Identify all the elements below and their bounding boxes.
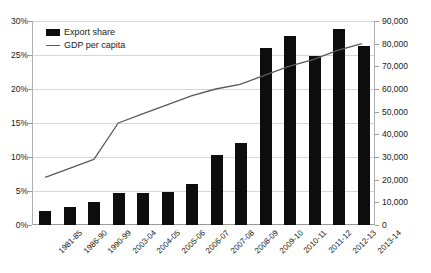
y-axis-right-tick-mark (375, 180, 379, 181)
y-axis-left-tick-label: 0% (0, 221, 28, 230)
x-axis-tick-label: 2013-14 (376, 229, 402, 255)
chart-container: 0%5%10%15%20%25%30% 010,00020,00030,0004… (0, 0, 431, 273)
x-axis-tick-label: 1981-85 (58, 229, 84, 255)
x-axis-tick-label: 1990-99 (107, 229, 133, 255)
legend-item-export-share: Export share (46, 26, 125, 39)
y-axis-right-tick-label: 40,000 (382, 130, 408, 139)
y-axis-left-tick-label: 15% (0, 119, 28, 128)
gdp-per-capita-line (45, 44, 362, 178)
legend-label-export-share: Export share (64, 28, 115, 37)
y-axis-right-tick-mark (375, 157, 379, 158)
x-axis-tick-label: 2007-08 (229, 229, 255, 255)
y-axis-left-tick-label: 10% (0, 153, 28, 162)
x-axis-tick-label: 2004-05 (156, 229, 182, 255)
chart-legend: Export share GDP per capita (46, 26, 125, 52)
y-axis-left-tick-label: 20% (0, 85, 28, 94)
x-axis-tick-label: 2008-09 (254, 229, 280, 255)
y-axis-right-tick-label: 20,000 (382, 176, 408, 185)
y-axis-right-tick-mark (375, 225, 379, 226)
y-axis-right-tick-mark (375, 112, 379, 113)
y-axis-right-tick-mark (375, 134, 379, 135)
legend-line-swatch-icon (46, 42, 60, 49)
y-axis-right-tick-label: 0 (382, 221, 387, 230)
y-axis-left-tick-label: 25% (0, 51, 28, 60)
x-axis-tick-label: 2011-12 (327, 229, 353, 255)
y-axis-right-tick-label: 60,000 (382, 85, 408, 94)
y-axis-right-tick-mark (375, 202, 379, 203)
y-axis-left-tick-mark (28, 225, 32, 226)
y-axis-right-tick-label: 10,000 (382, 198, 408, 207)
y-axis-right-tick-label: 30,000 (382, 153, 408, 162)
legend-item-gdp-per-capita: GDP per capita (46, 39, 125, 52)
y-axis-right-tick-label: 90,000 (382, 17, 408, 26)
x-axis-tick-label: 2012-13 (352, 229, 378, 255)
legend-label-gdp-per-capita: GDP per capita (64, 41, 125, 50)
y-axis-right-tick-mark (375, 66, 379, 67)
x-axis-tick-label: 2003-04 (131, 229, 157, 255)
y-axis-left-tick-label: 30% (0, 17, 28, 26)
y-axis-right-tick-label: 70,000 (382, 62, 408, 71)
y-axis-left-tick-label: 5% (0, 187, 28, 196)
x-axis-tick-label: 2005-06 (180, 229, 206, 255)
y-axis-right-tick-mark (375, 89, 379, 90)
x-axis-tick-label: 2006-07 (205, 229, 231, 255)
x-axis-tick-label: 2009-10 (278, 229, 304, 255)
x-axis-tick-label: 2010-11 (303, 229, 329, 255)
y-axis-right-tick-label: 50,000 (382, 108, 408, 117)
y-axis-right-tick-label: 80,000 (382, 40, 408, 49)
x-axis-tick-label: 1986-90 (82, 229, 108, 255)
legend-bar-swatch-icon (46, 29, 60, 36)
y-axis-right-tick-mark (375, 21, 379, 22)
y-axis-right-tick-mark (375, 44, 379, 45)
